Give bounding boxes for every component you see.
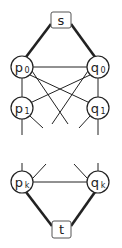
source-node: s: [51, 12, 71, 28]
svg-text:1: 1: [24, 107, 29, 116]
svg-text:q: q: [91, 60, 99, 75]
edge-diag-pk: [33, 164, 46, 178]
thick-edges: [26, 24, 95, 226]
edge-q1-diag: [79, 116, 90, 128]
svg-text:p: p: [15, 101, 23, 116]
svg-text:k: k: [101, 181, 106, 190]
edge-s-p0: [26, 24, 51, 57]
svg-text:p: p: [15, 175, 23, 190]
svg-text:s: s: [58, 13, 65, 28]
svg-text:1: 1: [100, 107, 105, 116]
node-q0: q 0: [87, 56, 109, 78]
node-q1: q 1: [87, 97, 109, 119]
node-qk: q k: [87, 171, 109, 193]
svg-text:0: 0: [24, 66, 29, 75]
node-pk: p k: [11, 171, 33, 193]
node-p0: p 0: [11, 56, 33, 78]
svg-text:0: 0: [100, 66, 105, 75]
node-p1: p 1: [11, 97, 33, 119]
svg-text:t: t: [59, 222, 64, 237]
svg-text:q: q: [91, 175, 99, 190]
graph-diagram: s t p 0 p 1 p k q 0 q 1 q k: [0, 0, 122, 248]
edge-qk-t: [71, 192, 95, 226]
edge-pk-t: [26, 192, 52, 226]
svg-text:q: q: [91, 101, 99, 116]
edge-p1-diag: [30, 116, 43, 128]
svg-text:k: k: [25, 181, 30, 190]
edge-s-q0: [71, 24, 95, 57]
edge-q0-down: [52, 71, 88, 124]
svg-text:p: p: [15, 60, 23, 75]
sink-node: t: [52, 221, 71, 238]
edge-diag-qk: [74, 164, 87, 178]
thin-edges: [22, 67, 98, 182]
edge-p0-down: [32, 71, 68, 124]
